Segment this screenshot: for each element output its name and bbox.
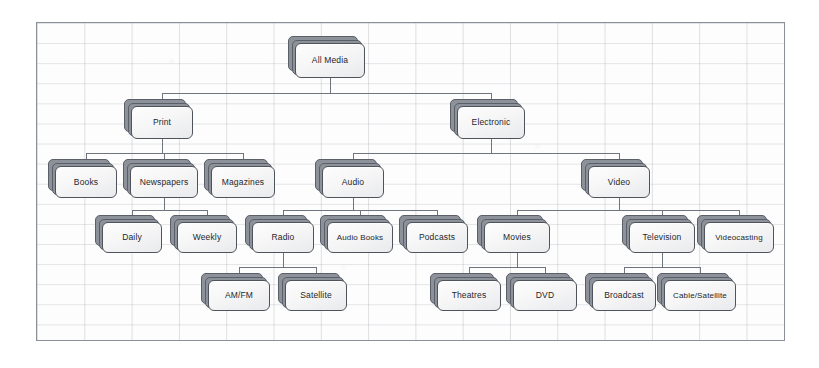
node-face: Daily bbox=[102, 222, 162, 253]
node-face: Broadcast bbox=[592, 280, 656, 311]
node-label: Video bbox=[606, 178, 632, 187]
node-weekly[interactable]: Weekly bbox=[177, 222, 237, 253]
node-face: Television bbox=[629, 222, 695, 253]
screenshot-root: All MediaPrintElectronicBooksNewspapersM… bbox=[0, 0, 819, 368]
node-face: Movies bbox=[484, 222, 550, 253]
connector-stem-video bbox=[619, 198, 620, 210]
node-face: Videocasting bbox=[704, 222, 774, 253]
node-label: Theatres bbox=[450, 291, 489, 300]
node-podcasts[interactable]: Podcasts bbox=[406, 222, 468, 253]
node-label: Satellite bbox=[298, 291, 334, 300]
node-audio-books[interactable]: Audio Books bbox=[327, 222, 393, 253]
node-label: Print bbox=[151, 118, 173, 127]
connector-stem-print bbox=[162, 139, 163, 153]
node-face: Audio Books bbox=[327, 222, 393, 253]
node-videocasting[interactable]: Videocasting bbox=[704, 222, 774, 253]
node-am-fm[interactable]: AM/FM bbox=[208, 280, 270, 311]
node-electronic[interactable]: Electronic bbox=[457, 106, 525, 139]
node-cable-satellite[interactable]: Cable/Satellite bbox=[664, 280, 736, 311]
node-daily[interactable]: Daily bbox=[102, 222, 162, 253]
node-books[interactable]: Books bbox=[55, 166, 117, 198]
connector-bus-newspapers bbox=[132, 210, 207, 211]
node-label: Videocasting bbox=[713, 234, 764, 242]
node-broadcast[interactable]: Broadcast bbox=[592, 280, 656, 311]
node-satellite[interactable]: Satellite bbox=[285, 280, 347, 311]
node-television[interactable]: Television bbox=[629, 222, 695, 253]
node-magazines[interactable]: Magazines bbox=[211, 166, 275, 198]
node-print[interactable]: Print bbox=[131, 106, 193, 139]
node-label: All Media bbox=[310, 56, 350, 65]
node-label: Audio Books bbox=[335, 234, 386, 242]
node-face: Satellite bbox=[285, 280, 347, 311]
node-label: Cable/Satellite bbox=[671, 292, 729, 300]
node-all-media[interactable]: All Media bbox=[295, 43, 365, 78]
connector-stem-audio bbox=[353, 198, 354, 210]
node-face: Cable/Satellite bbox=[664, 280, 736, 311]
connector-stem-electronic bbox=[491, 139, 492, 153]
node-label: AM/FM bbox=[223, 291, 255, 300]
node-label: DVD bbox=[534, 291, 556, 300]
connector-bus-all-media bbox=[162, 93, 491, 94]
node-movies[interactable]: Movies bbox=[484, 222, 550, 253]
node-radio[interactable]: Radio bbox=[252, 222, 314, 253]
node-label: Audio bbox=[340, 178, 367, 187]
node-label: Electronic bbox=[470, 118, 513, 127]
node-label: Newspapers bbox=[138, 178, 191, 187]
node-face: DVD bbox=[513, 280, 577, 311]
node-label: Podcasts bbox=[417, 233, 457, 242]
node-dvd[interactable]: DVD bbox=[513, 280, 577, 311]
node-theatres[interactable]: Theatres bbox=[437, 280, 501, 311]
node-label: Radio bbox=[270, 233, 297, 242]
node-label: Television bbox=[641, 233, 684, 242]
connector-stem-all-media bbox=[330, 78, 331, 93]
node-label: Magazines bbox=[220, 178, 266, 187]
connector-stem-radio bbox=[283, 253, 284, 267]
node-face: AM/FM bbox=[208, 280, 270, 311]
node-label: Broadcast bbox=[602, 291, 646, 300]
connector-bus-video bbox=[517, 210, 739, 211]
node-face: All Media bbox=[295, 43, 365, 78]
node-face: Video bbox=[588, 166, 650, 198]
connector-stem-movies bbox=[517, 253, 518, 267]
node-label: Daily bbox=[120, 233, 144, 242]
node-face: Audio bbox=[322, 166, 384, 198]
node-newspapers[interactable]: Newspapers bbox=[130, 166, 198, 198]
node-face: Radio bbox=[252, 222, 314, 253]
connector-bus-radio bbox=[239, 267, 316, 268]
node-face: Books bbox=[55, 166, 117, 198]
connector-stem-newspapers bbox=[164, 198, 165, 210]
connector-bus-movies bbox=[469, 267, 545, 268]
connector-bus-television bbox=[624, 267, 700, 268]
node-label: Books bbox=[72, 178, 100, 187]
node-face: Newspapers bbox=[130, 166, 198, 198]
connector-stem-television bbox=[662, 253, 663, 267]
node-face: Podcasts bbox=[406, 222, 468, 253]
connector-bus-electronic bbox=[353, 153, 619, 154]
diagram-canvas: All MediaPrintElectronicBooksNewspapersM… bbox=[36, 22, 785, 341]
node-audio[interactable]: Audio bbox=[322, 166, 384, 198]
node-face: Theatres bbox=[437, 280, 501, 311]
node-face: Print bbox=[131, 106, 193, 139]
node-face: Magazines bbox=[211, 166, 275, 198]
node-video[interactable]: Video bbox=[588, 166, 650, 198]
node-label: Movies bbox=[501, 233, 533, 242]
node-face: Weekly bbox=[177, 222, 237, 253]
node-face: Electronic bbox=[457, 106, 525, 139]
node-label: Weekly bbox=[191, 233, 224, 242]
